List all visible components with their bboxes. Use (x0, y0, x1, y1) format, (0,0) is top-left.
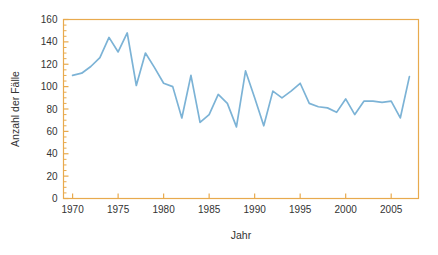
line-chart: 020406080100120140160 197019751980198519… (0, 0, 438, 255)
y-tick-label: 0 (52, 193, 58, 204)
y-tick-label: 140 (41, 36, 58, 47)
x-axis-major-ticks (73, 194, 392, 199)
x-axis-tick-labels: 19701975198019851990199520002005 (61, 204, 402, 215)
x-tick-label: 1995 (289, 204, 312, 215)
y-axis-tick-labels: 020406080100120140160 (41, 14, 58, 204)
y-tick-label: 20 (46, 171, 58, 182)
chart-page: 020406080100120140160 197019751980198519… (0, 0, 438, 255)
y-tick-label: 80 (46, 104, 58, 115)
y-tick-label: 60 (46, 126, 58, 137)
x-tick-label: 1970 (61, 204, 84, 215)
x-tick-label: 1985 (198, 204, 221, 215)
x-tick-label: 1990 (244, 204, 267, 215)
x-tick-label: 1975 (107, 204, 130, 215)
x-tick-label: 2000 (335, 204, 358, 215)
x-tick-label: 1980 (153, 204, 176, 215)
y-tick-label: 160 (41, 14, 58, 25)
y-axis-major-ticks (64, 20, 69, 199)
y-tick-label: 100 (41, 81, 58, 92)
y-axis-title: Anzahl der Fälle (9, 71, 21, 147)
y-tick-label: 40 (46, 148, 58, 159)
x-axis-title: Jahr (231, 229, 252, 241)
plot-frame (64, 20, 419, 199)
y-tick-label: 120 (41, 59, 58, 70)
plot-border (64, 20, 419, 199)
x-tick-label: 2005 (380, 204, 403, 215)
data-series-line (73, 33, 410, 127)
